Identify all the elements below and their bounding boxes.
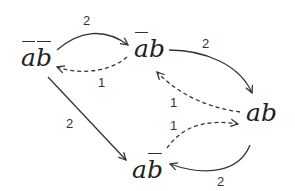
edge-n2-n1 [57, 57, 127, 71]
node-char: a [134, 36, 149, 61]
edge-label-n2-n3: 2 [202, 37, 209, 50]
state-diagram: ab ab ab ab 2 1 2 1 2 1 2 [0, 0, 295, 191]
node-char: b [147, 157, 163, 182]
node-abar-bbar: ab [21, 45, 52, 70]
edge-label-n1-n2: 2 [83, 14, 90, 27]
node-char: a [21, 45, 36, 70]
edge-label-n2-n1: 1 [98, 76, 105, 89]
edge-label-n3-n4: 2 [217, 175, 224, 188]
node-a-bbar: ab [132, 157, 163, 182]
edge-label-n1-n4: 2 [66, 117, 73, 130]
edge-n1-n2 [57, 34, 128, 50]
node-char: a [246, 100, 261, 125]
node-char: a [132, 157, 147, 182]
edge-n1-n4 [48, 77, 126, 160]
node-char: b [36, 45, 52, 70]
node-a-b: ab [246, 100, 277, 125]
node-char: b [261, 100, 277, 125]
edge-label-n3-n2: 1 [170, 96, 177, 109]
edge-n2-n3 [169, 50, 252, 93]
node-abar-b: ab [134, 36, 165, 61]
edge-n3-n4 [170, 145, 250, 171]
node-char: b [149, 36, 165, 61]
edge-n4-n3 [167, 122, 238, 148]
edge-label-n4-n3: 1 [170, 119, 177, 132]
